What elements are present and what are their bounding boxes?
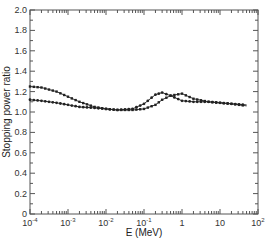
series-circles-line [30,93,247,110]
y-tick-label: 0.2 [14,189,27,199]
y-axis-title: Stopping power ratio [1,66,12,158]
y-tick-label: 0.8 [14,127,27,137]
y-tick-label: 2.0 [14,5,27,15]
x-tick-label: 1 [179,218,184,228]
y-tick-label: 0.6 [14,148,27,158]
x-tick-label: 102 [251,217,265,228]
plot-area [30,10,258,214]
data-series [29,85,247,111]
chart: 10-410-310-210-111010200.20.40.60.81.01.… [0,0,265,242]
y-tick-label: 0.4 [14,168,27,178]
y-tick-label: 1.0 [14,107,27,117]
x-axis-title: E (MeV) [126,227,163,238]
axis-ticks: 10-410-310-210-111010200.20.40.60.81.01.… [14,5,265,228]
x-tick-label: 10-3 [60,217,76,228]
x-tick-label: 10 [215,218,225,228]
y-tick-label: 1.2 [14,87,27,97]
y-tick-label: 0 [22,209,27,219]
y-tick-label: 1.4 [14,66,27,76]
x-tick-label: 10-2 [98,217,114,228]
y-tick-label: 1.6 [14,46,27,56]
plot-border [30,10,258,214]
y-tick-label: 1.8 [14,25,27,35]
